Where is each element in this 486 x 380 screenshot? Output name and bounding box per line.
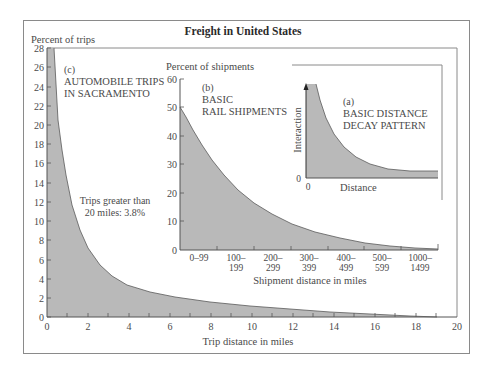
- panel-c-x-axis-label: Trip distance in miles: [203, 336, 294, 347]
- svg-text:8: 8: [209, 321, 214, 332]
- svg-text:200–: 200–: [264, 253, 283, 263]
- svg-text:6: 6: [168, 321, 173, 332]
- svg-text:18: 18: [34, 139, 44, 150]
- panel-b-label: (b): [202, 82, 214, 94]
- panel-c-annotation-2: 20 miles: 3.8%: [85, 207, 145, 218]
- svg-text:499: 499: [339, 263, 354, 273]
- svg-text:10: 10: [167, 216, 177, 227]
- svg-text:12: 12: [288, 321, 298, 332]
- svg-text:20: 20: [167, 188, 177, 199]
- panel-c-annotation-1: Trips greater than: [80, 195, 151, 206]
- svg-text:599: 599: [375, 263, 390, 273]
- panel-a-title-1: BASIC DISTANCE: [343, 108, 428, 119]
- svg-text:60: 60: [167, 74, 177, 85]
- svg-text:1000–: 1000–: [408, 253, 432, 263]
- svg-text:14: 14: [34, 178, 44, 189]
- svg-text:199: 199: [229, 263, 244, 273]
- svg-text:12: 12: [34, 197, 44, 208]
- svg-text:299: 299: [266, 263, 281, 273]
- panel-c-y-tick-labels: 0 2 4 6 8 10 12 14 16 18 20 22 24 26 28: [34, 43, 44, 323]
- panel-b-title-1: BASIC: [202, 94, 233, 105]
- panel-b-x-axis-label: Shipment distance in miles: [253, 275, 366, 286]
- panel-a-x-axis-label: Distance: [340, 182, 377, 193]
- panel-a: 0 0 Interaction Distance (a) BASIC DISTA…: [292, 65, 442, 200]
- svg-text:22: 22: [34, 101, 44, 112]
- svg-text:100–: 100–: [227, 253, 246, 263]
- svg-text:4: 4: [127, 321, 132, 332]
- svg-text:0–99: 0–99: [190, 253, 209, 263]
- svg-text:30: 30: [167, 159, 177, 170]
- svg-text:50: 50: [167, 102, 177, 113]
- panel-c-title-1: AUTOMOBILE TRIPS: [64, 76, 164, 87]
- svg-text:40: 40: [167, 131, 177, 142]
- svg-text:399: 399: [302, 263, 317, 273]
- panel-c-title-2: IN SACRAMENTO: [64, 88, 150, 99]
- svg-text:20: 20: [34, 120, 44, 131]
- svg-text:0: 0: [45, 321, 50, 332]
- svg-text:0: 0: [39, 312, 44, 323]
- svg-text:20: 20: [452, 321, 462, 332]
- panel-a-label: (a): [343, 96, 354, 108]
- panel-c-label: (c): [64, 64, 75, 76]
- panel-a-y-axis-label: Interaction: [292, 107, 303, 153]
- svg-text:400–: 400–: [337, 253, 356, 263]
- svg-text:14: 14: [329, 321, 339, 332]
- svg-text:10: 10: [247, 321, 257, 332]
- svg-text:16: 16: [370, 321, 380, 332]
- svg-text:4: 4: [39, 274, 44, 285]
- svg-text:10: 10: [34, 216, 44, 227]
- svg-text:2: 2: [86, 321, 91, 332]
- svg-text:18: 18: [411, 321, 421, 332]
- svg-text:500–: 500–: [373, 253, 392, 263]
- svg-text:16: 16: [34, 158, 44, 169]
- svg-text:1499: 1499: [411, 263, 430, 273]
- panel-a-y0: 0: [296, 174, 301, 184]
- svg-text:0: 0: [172, 245, 177, 256]
- svg-text:24: 24: [34, 82, 44, 93]
- panel-a-title-2: DECAY PATTERN: [343, 120, 426, 131]
- panel-b-y-axis-label: Percent of shipments: [166, 61, 254, 72]
- svg-text:6: 6: [39, 255, 44, 266]
- svg-text:26: 26: [34, 62, 44, 73]
- chart-canvas: 0 2 4 6 8 10 12 14 16 18 20 22 24 26 28 …: [0, 0, 486, 380]
- panel-a-x0: 0: [306, 182, 311, 192]
- panel-c-y-axis-label: Percent of trips: [31, 34, 95, 45]
- panel-b-title-2: RAIL SHIPMENTS: [202, 106, 287, 117]
- svg-text:300–: 300–: [300, 253, 319, 263]
- panel-c-x-tick-labels: 0 2 4 6 8 10 12 14 16 18 20: [45, 321, 463, 332]
- svg-text:2: 2: [39, 293, 44, 304]
- svg-text:8: 8: [39, 235, 44, 246]
